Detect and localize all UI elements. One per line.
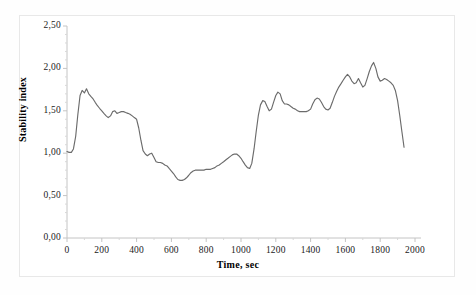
y-tick-label: 1,00 <box>25 147 61 157</box>
y-tick-marks <box>63 26 67 238</box>
y-tick-label: 2,00 <box>25 62 61 72</box>
y-tick-label: 0,00 <box>25 232 61 242</box>
y-axis-title: Stability index <box>17 60 28 160</box>
figure-canvas: 0,000,501,001,502,002,50 020040060080010… <box>0 0 476 295</box>
x-axis-title: Time, sec <box>0 259 476 270</box>
axes-group <box>67 26 421 238</box>
y-tick-label: 1,50 <box>25 105 61 115</box>
y-tick-label: 0,50 <box>25 190 61 200</box>
x-tick-marks <box>67 238 415 242</box>
stability-index-series <box>67 62 404 180</box>
y-tick-label: 2,50 <box>25 20 61 30</box>
x-tick-label: 2000 <box>395 245 435 255</box>
